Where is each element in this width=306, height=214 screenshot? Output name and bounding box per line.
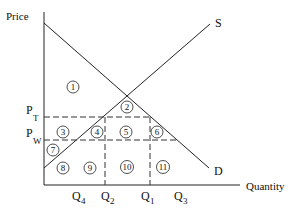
svg-text:3: 3 <box>183 196 188 206</box>
svg-text:4: 4 <box>81 196 86 206</box>
svg-text:1: 1 <box>150 196 155 206</box>
svg-text:P: P <box>26 126 33 140</box>
svg-text:Q: Q <box>101 189 110 203</box>
y-axis-label: Price <box>6 10 29 22</box>
x-axis-label: Quantity <box>246 180 285 192</box>
svg-text:W: W <box>33 136 42 146</box>
svg-text:7: 7 <box>51 145 56 155</box>
svg-text:4: 4 <box>95 127 100 137</box>
region-11: 11 <box>157 161 170 174</box>
supply-label: S <box>215 16 222 30</box>
region-4: 4 <box>91 126 103 138</box>
supply-demand-diagram: Price Quantity S D P T P W Q 4 Q 2 Q 1 Q… <box>0 0 306 214</box>
svg-text:Q: Q <box>174 189 183 203</box>
q4-label: Q 4 <box>72 189 86 206</box>
svg-text:1: 1 <box>71 82 76 92</box>
region-9: 9 <box>84 162 96 174</box>
region-8: 8 <box>57 162 69 174</box>
svg-text:T: T <box>33 113 39 123</box>
region-1: 1 <box>67 81 79 93</box>
region-5: 5 <box>120 126 132 138</box>
region-6: 6 <box>151 126 163 138</box>
svg-text:6: 6 <box>155 127 160 137</box>
region-7: 7 <box>47 144 59 156</box>
q2-label: Q 2 <box>101 189 115 206</box>
svg-text:Q: Q <box>141 189 150 203</box>
svg-text:3: 3 <box>61 127 66 137</box>
demand-label: D <box>214 164 223 178</box>
svg-text:8: 8 <box>61 163 66 173</box>
pt-label: P T <box>26 103 39 123</box>
svg-text:5: 5 <box>124 127 129 137</box>
q3-label: Q 3 <box>174 189 188 206</box>
q1-label: Q 1 <box>141 189 155 206</box>
svg-text:2: 2 <box>110 196 115 206</box>
svg-text:Q: Q <box>72 189 81 203</box>
region-2: 2 <box>121 101 133 113</box>
region-10: 10 <box>121 161 134 174</box>
svg-text:9: 9 <box>88 163 93 173</box>
svg-text:P: P <box>26 103 33 117</box>
region-3: 3 <box>57 126 69 138</box>
svg-text:2: 2 <box>125 102 130 112</box>
pw-label: P W <box>26 126 42 146</box>
svg-text:10: 10 <box>123 162 133 172</box>
svg-text:11: 11 <box>159 162 168 172</box>
